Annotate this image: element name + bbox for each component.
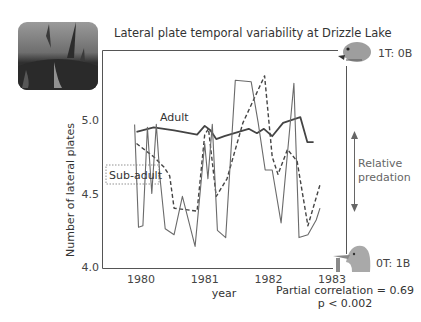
y-tick-label: 5.0 xyxy=(82,114,100,127)
y-tick-label: 4.5 xyxy=(82,188,100,201)
predation-label-line1: Relative xyxy=(358,157,411,171)
partial-correlation-text: Partial correlation = 0.69 xyxy=(270,284,420,297)
y-tick-label: 4.0 xyxy=(82,261,100,274)
plot-frame xyxy=(103,51,347,269)
predation-arrow xyxy=(351,131,358,212)
adult-series-label: Adult xyxy=(160,111,189,124)
bottom-bird-label: 0T: 1B xyxy=(376,257,410,270)
bird-head-icon xyxy=(333,246,370,272)
p-value-text: p < 0.002 xyxy=(270,297,420,310)
y-axis-label: Number of lateral plates xyxy=(64,123,77,257)
correlation-stats: Partial correlation = 0.69 p < 0.002 xyxy=(270,284,420,310)
y-axis-ticks: 4.04.55.0 xyxy=(82,114,100,274)
subadult-series-label: Sub-adult xyxy=(109,169,163,182)
x-tick-label: 1980 xyxy=(127,273,155,286)
data-series xyxy=(135,76,320,247)
series-line-sub-adult-raw xyxy=(135,80,320,246)
relative-predation-label: Relative predation xyxy=(358,157,411,185)
fish-head-icon xyxy=(338,42,371,62)
x-axis-label: year xyxy=(212,287,237,300)
top-fish-label: 1T: 0B xyxy=(378,47,412,60)
predation-label-line2: predation xyxy=(358,171,411,185)
x-tick-label: 1981 xyxy=(191,273,219,286)
